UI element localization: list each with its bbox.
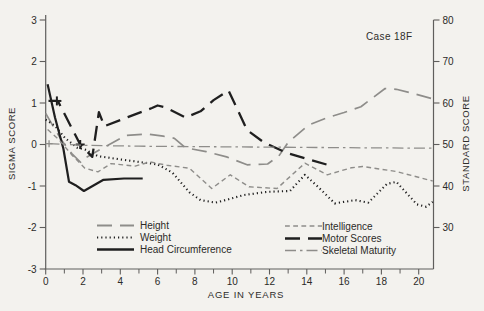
y-tick-label-right: 70 [443,56,455,67]
x-tick-label: 0 [43,276,49,287]
series-weight-line [46,120,433,207]
chart-canvas: 3210-1-2-380706050403002468101214161820H… [0,0,484,311]
legend-label-intelligence: Intelligence [322,221,373,232]
x-tick-label: 10 [227,276,239,287]
y-tick-label-left: -2 [28,222,37,233]
x-tick-label: 12 [264,276,276,287]
series-height-line [46,89,433,165]
growth-chart-figure: 3210-1-2-380706050403002468101214161820H… [0,0,484,311]
y-axis-title-right: STANDARD SCORE [460,79,471,209]
legend-label-weight: Weight [140,232,171,243]
y-tick-label-right: 80 [443,15,455,26]
y-axis-title-left: SIGMA SCORE [6,84,17,204]
y-tick-label-right: 50 [443,139,455,150]
x-tick-label: 8 [192,276,198,287]
y-tick-label-left: -3 [28,264,37,275]
x-tick-label: 16 [339,276,351,287]
y-tick-label-right: 60 [443,98,455,109]
series-skeletal_maturity-line [49,144,433,149]
case-annotation: Case 18F [366,31,413,42]
x-tick-label: 18 [376,276,388,287]
x-tick-label: 20 [413,276,425,287]
y-tick-label-left: 0 [31,139,37,150]
y-tick-label-left: -1 [28,181,37,192]
x-tick-label: 6 [155,276,161,287]
x-axis-title: AGE IN YEARS [176,289,316,300]
y-tick-label-left: 1 [31,98,37,109]
legend-label-skeletal_maturity: Skeletal Maturity [322,245,396,256]
x-tick-label: 2 [80,276,86,287]
x-tick-label: 4 [118,276,124,287]
y-tick-label-right: 40 [443,181,455,192]
y-tick-label-left: 2 [31,56,37,67]
x-tick-label: 14 [301,276,313,287]
legend-label-height: Height [140,220,169,231]
y-tick-label-left: 3 [31,15,37,26]
legend-label-head_circumference: Head Circumference [140,244,232,255]
series-motor_scores-line [49,91,330,166]
y-tick-label-right: 30 [443,222,455,233]
legend-label-motor_scores: Motor Scores [322,233,381,244]
